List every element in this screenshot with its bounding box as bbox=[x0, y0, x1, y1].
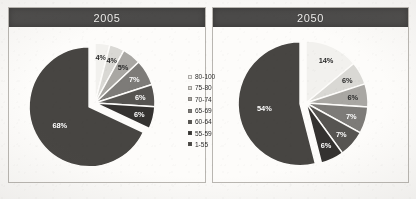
legend-item: 75-80 bbox=[188, 82, 234, 93]
legend-swatch-icon bbox=[188, 120, 192, 124]
legend-item-label: 55-59 bbox=[195, 130, 212, 137]
panel-title-2005: 2005 bbox=[94, 12, 121, 24]
legend-swatch-icon bbox=[188, 86, 192, 90]
legend-swatch-icon bbox=[188, 131, 192, 135]
pie-slice-label: 7% bbox=[129, 75, 140, 84]
legend-item: 60-64 bbox=[188, 116, 234, 127]
legend-item: 70-74 bbox=[188, 94, 234, 105]
pie-chart-2005: 4%4%5%7%6%6%68% bbox=[9, 27, 205, 182]
legend-item-label: 1-55 bbox=[195, 141, 208, 148]
panel-title-bar-2005: 2005 bbox=[9, 8, 205, 27]
legend-swatch-icon bbox=[188, 109, 192, 113]
pie-slice-wedge bbox=[238, 42, 315, 166]
panel-body-2050: 14%6%6%7%7%6%54% bbox=[213, 27, 408, 182]
pie-svg-2005: 4%4%5%7%6%6%68% bbox=[9, 27, 205, 182]
legend-item-label: 60-64 bbox=[195, 118, 212, 125]
chart-legend: 80-10075-8070-7465-6960-6455-591-55 bbox=[188, 71, 234, 150]
pie-slice-label: 6% bbox=[348, 93, 359, 102]
panel-body-2005: 4%4%5%7%6%6%68% bbox=[9, 27, 205, 182]
chart-panel-2050: 2050 14%6%6%7%7%6%54% bbox=[212, 7, 409, 183]
legend-item-label: 80-100 bbox=[195, 73, 215, 80]
pie-slice-label: 14% bbox=[319, 56, 334, 65]
chart-panel-2005: 2005 4%4%5%7%6%6%68% bbox=[8, 7, 206, 183]
legend-item-label: 65-69 bbox=[195, 107, 212, 114]
pie-svg-2050: 14%6%6%7%7%6%54% bbox=[213, 27, 408, 182]
legend-item: 65-69 bbox=[188, 105, 234, 116]
pie-slice: 54% bbox=[238, 42, 315, 166]
pie-slice-label: 54% bbox=[257, 104, 272, 113]
two-pie-chart-figure: 2005 4%4%5%7%6%6%68% 2050 14%6%6%7%7%6%5… bbox=[0, 0, 416, 199]
pie-slice-label: 6% bbox=[134, 110, 145, 119]
pie-slice-label: 6% bbox=[321, 141, 332, 150]
pie-slice-label: 7% bbox=[346, 112, 357, 121]
pie-chart-2050: 14%6%6%7%7%6%54% bbox=[213, 27, 408, 182]
pie-slice-label: 68% bbox=[52, 121, 67, 130]
pie-slice-label: 7% bbox=[336, 130, 347, 139]
panel-title-2050: 2050 bbox=[297, 12, 324, 24]
legend-item: 1-55 bbox=[188, 139, 234, 150]
legend-item-label: 75-80 bbox=[195, 84, 212, 91]
legend-swatch-icon bbox=[188, 97, 192, 101]
pie-slice-label: 6% bbox=[342, 76, 353, 85]
legend-swatch-icon bbox=[188, 142, 192, 146]
pie-slice-label: 5% bbox=[118, 63, 129, 72]
legend-swatch-icon bbox=[188, 75, 192, 79]
legend-item: 80-100 bbox=[188, 71, 234, 82]
legend-item: 55-59 bbox=[188, 127, 234, 138]
pie-slice-label: 6% bbox=[135, 93, 146, 102]
panel-title-bar-2050: 2050 bbox=[213, 8, 408, 27]
legend-item-label: 70-74 bbox=[195, 96, 212, 103]
pie-slice-label: 4% bbox=[95, 53, 106, 62]
